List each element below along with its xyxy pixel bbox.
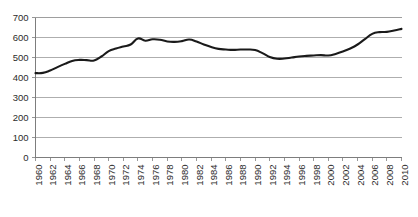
y-axis-tick-label: 200 [13, 112, 29, 123]
x-axis-tick-label: 1982 [194, 165, 205, 186]
y-axis-tick-label: 400 [13, 72, 29, 83]
x-axis-tick-label: 1988 [237, 165, 248, 186]
x-axis-tick-label: 1994 [281, 165, 292, 186]
x-axis-tick-label: 1990 [252, 165, 263, 186]
line-chart: 0100200300400500600700 19601962196419661… [0, 0, 418, 217]
x-axis-tick-label: 2008 [384, 165, 395, 186]
x-axis-tick-label: 1986 [223, 165, 234, 186]
x-axis-tick-label: 1978 [164, 165, 175, 186]
x-axis-tick-label: 1962 [47, 165, 58, 186]
x-axis-tick-label: 2000 [325, 165, 336, 186]
x-axis-tick-label: 1996 [296, 165, 307, 186]
x-axis-tick-label: 1976 [150, 165, 161, 186]
x-axis-tick-label: 1998 [311, 165, 322, 186]
x-axis-tick-label: 1966 [76, 165, 87, 186]
chart-canvas: 0100200300400500600700 19601962196419661… [0, 0, 418, 217]
x-axis-tick-label: 1984 [208, 165, 219, 186]
x-axis-tick-label: 1964 [62, 165, 73, 186]
y-axis-tick-label: 0 [23, 152, 28, 163]
y-axis-tick-label: 700 [13, 12, 29, 23]
y-axis-tick-label: 100 [13, 132, 29, 143]
y-axis-tick-label: 600 [13, 32, 29, 43]
x-axis-tick-label: 2010 [399, 165, 410, 186]
x-axis-tick-label: 1974 [135, 165, 146, 186]
y-axis-tick-label: 300 [13, 92, 29, 103]
x-axis-tick-label: 1992 [267, 165, 278, 186]
x-axis-tick-label: 1960 [33, 165, 44, 186]
x-axis-tick-label: 1970 [106, 165, 117, 186]
x-axis-tick-label: 2004 [355, 165, 366, 186]
x-axis-tick-label: 1968 [91, 165, 102, 186]
x-axis-tick-label: 2006 [369, 165, 380, 186]
y-axis-tick-label: 500 [13, 52, 29, 63]
x-axis-tick-label: 1972 [120, 165, 131, 186]
x-axis-tick-label: 1980 [179, 165, 190, 186]
x-axis-tick-label: 2002 [340, 165, 351, 186]
